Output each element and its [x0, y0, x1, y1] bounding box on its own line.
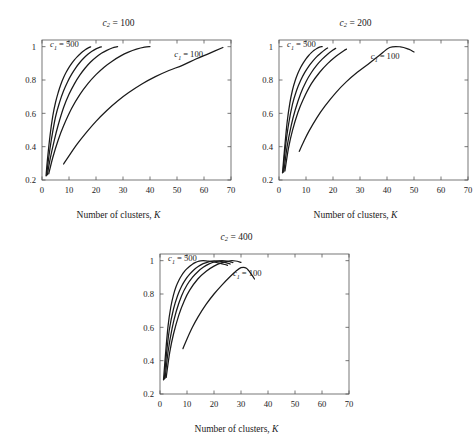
plot-svg-c2-200: 0102030405060700.20.40.60.81c1= 500c1= 1…	[237, 32, 474, 212]
panel-title-c2-400: c2 = 400	[118, 232, 355, 242]
x-tick-label: 70	[227, 185, 236, 195]
y-tick-label: 0.2	[25, 175, 36, 185]
panel-c2-400: c2 = 400 0102030405060700.20.40.60.81c1=…	[118, 232, 355, 444]
y-tick-label: 0.6	[262, 109, 273, 119]
x-tick-label: 20	[210, 399, 219, 409]
y-tick-label: 0.6	[25, 109, 36, 119]
y-tick-label: 0.4	[262, 142, 273, 152]
plot-svg-c2-100: 0102030405060700.20.40.60.81c1= 500c1= 1…	[0, 32, 237, 212]
curve-c1-400	[47, 47, 102, 176]
x-tick-label: 0	[277, 185, 281, 195]
y-tick-label: 0.4	[25, 142, 36, 152]
title-value: = 200	[349, 18, 371, 28]
plot-area-c2-100: 0102030405060700.20.40.60.81c1= 500c1= 1…	[0, 32, 237, 212]
plot-svg-c2-400: 0102030405060700.20.40.60.81c1= 500c1= 1…	[118, 246, 355, 426]
x-tick-label: 20	[92, 185, 101, 195]
x-tick-label: 40	[264, 399, 273, 409]
x-tick-label: 10	[302, 185, 311, 195]
x-tick-label: 50	[410, 185, 419, 195]
x-tick-label: 60	[318, 399, 327, 409]
x-tick-label: 10	[65, 185, 74, 195]
x-tick-label: 70	[464, 185, 473, 195]
curve-c1-100	[299, 47, 414, 152]
figure-three-panel-chart: c2 = 100 0102030405060700.20.40.60.81c1=…	[0, 0, 474, 447]
x-tick-label: 60	[200, 185, 209, 195]
title-subscript: 2	[107, 21, 110, 28]
y-tick-label: 0.2	[143, 389, 154, 399]
title-value: = 100	[112, 18, 134, 28]
x-tick-label: 40	[383, 185, 392, 195]
xaxis-label-symbol: K	[272, 424, 278, 434]
xaxis-label-c2-200: Number of clusters, K	[237, 210, 474, 220]
title-value: = 400	[230, 232, 252, 242]
x-tick-label: 50	[291, 399, 300, 409]
y-tick-label: 1	[150, 256, 154, 266]
x-tick-label: 60	[437, 185, 446, 195]
plot-area-c2-200: 0102030405060700.20.40.60.81c1= 500c1= 1…	[237, 32, 474, 212]
curve-c1-100	[183, 267, 255, 348]
curve-c1-400	[283, 48, 328, 172]
y-tick-label: 0.6	[143, 323, 154, 333]
panel-c2-100: c2 = 100 0102030405060700.20.40.60.81c1=…	[0, 18, 237, 230]
y-tick-label: 0.4	[143, 356, 154, 366]
y-tick-label: 0.8	[143, 289, 154, 299]
xaxis-label-text: Number of clusters,	[77, 210, 152, 220]
y-tick-label: 0.8	[25, 75, 36, 85]
x-tick-label: 0	[40, 185, 44, 195]
panel-c2-200: c2 = 200 0102030405060700.20.40.60.81c1=…	[237, 18, 474, 230]
annotation-c1-100: c1= 100	[371, 51, 400, 63]
x-tick-label: 30	[237, 399, 246, 409]
x-tick-label: 0	[158, 399, 162, 409]
x-tick-label: 30	[119, 185, 128, 195]
x-tick-label: 20	[329, 185, 338, 195]
xaxis-label-symbol: K	[154, 210, 160, 220]
y-tick-label: 0.8	[262, 75, 273, 85]
x-tick-label: 30	[356, 185, 365, 195]
x-tick-label: 70	[345, 399, 354, 409]
y-tick-label: 0.2	[262, 175, 273, 185]
x-tick-label: 50	[173, 185, 182, 195]
xaxis-label-symbol: K	[391, 210, 397, 220]
annotation-c1-100: c1= 100	[174, 49, 203, 61]
xaxis-label-c2-100: Number of clusters, K	[0, 210, 237, 220]
curve-c1-200	[49, 47, 150, 174]
plot-area-c2-400: 0102030405060700.20.40.60.81c1= 500c1= 1…	[118, 246, 355, 426]
xaxis-label-text: Number of clusters,	[314, 210, 389, 220]
panel-title-c2-200: c2 = 200	[237, 18, 474, 28]
curve-c1-200	[166, 261, 241, 378]
x-tick-label: 40	[146, 185, 155, 195]
title-subscript: 2	[344, 21, 347, 28]
title-subscript: 2	[225, 235, 228, 242]
y-tick-label: 1	[269, 42, 273, 52]
xaxis-label-c2-400: Number of clusters, K	[118, 424, 355, 434]
y-tick-label: 1	[32, 42, 36, 52]
panel-title-c2-100: c2 = 100	[0, 18, 237, 28]
xaxis-label-text: Number of clusters,	[195, 424, 270, 434]
x-tick-label: 10	[183, 399, 192, 409]
